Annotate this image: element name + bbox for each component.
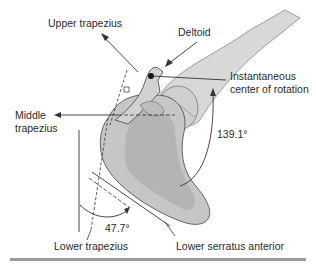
label-icr-line1: Instantaneous [230,70,296,82]
label-lower-trapezius: Lower trapezius [54,240,128,252]
label-middle-trapezius-line2: trapezius [15,122,58,134]
label-icr-line2: center of rotation [230,83,309,95]
label-lower-serratus-anterior: Lower serratus anterior [176,240,284,252]
label-angle-47: 47.7° [105,222,130,234]
label-angle-139: 139.1° [217,128,247,140]
label-upper-trapezius: Upper trapezius [48,17,122,29]
label-middle-trapezius-line1: Middle [15,109,46,121]
label-deltoid: Deltoid [178,26,211,38]
scapulohumeral-diagram [0,0,316,268]
bottom-rule [10,258,306,261]
